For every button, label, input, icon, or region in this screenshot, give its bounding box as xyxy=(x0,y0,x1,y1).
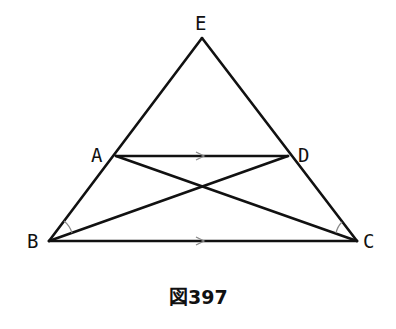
segment-EB xyxy=(49,38,202,241)
label-E: E xyxy=(195,12,206,34)
angle-mark-C xyxy=(336,222,342,233)
segment-EC xyxy=(202,38,357,241)
label-C: C xyxy=(363,230,374,252)
label-A: A xyxy=(91,144,103,166)
label-D: D xyxy=(298,144,309,166)
angle-mark-B xyxy=(64,221,72,233)
geometry-figure: E A D B C 図397 xyxy=(0,0,396,329)
figure-caption: 図397 xyxy=(169,286,228,308)
segment-DB xyxy=(49,156,288,241)
segment-AC xyxy=(116,156,357,241)
label-B: B xyxy=(27,230,38,252)
